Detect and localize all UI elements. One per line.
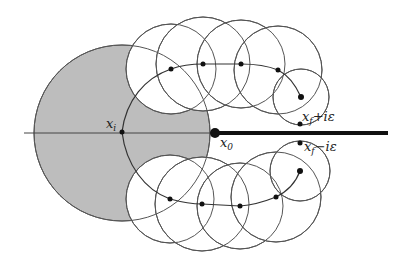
x-f-minus-point xyxy=(298,141,303,146)
label-x-0: x0 xyxy=(220,135,233,152)
label-x-f-minus: xf−iε xyxy=(304,139,337,156)
branch-point-x0 xyxy=(210,128,220,138)
x-i-point xyxy=(120,130,125,135)
label-x-f-plus: xf+iε xyxy=(302,109,335,126)
analytic-continuation-diagram: xi x0 xf+iε xf−iε xyxy=(0,0,405,269)
